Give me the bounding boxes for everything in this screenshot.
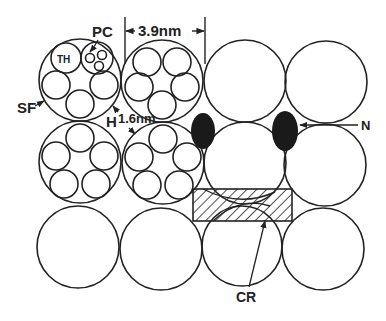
fibre-r3c1 xyxy=(37,206,119,288)
super-fibre-r1c2 xyxy=(121,40,203,122)
fibre-r1c4 xyxy=(285,41,367,123)
label-n: N xyxy=(361,118,370,133)
label-sf: SF xyxy=(17,99,36,116)
super-fibre-th-pc xyxy=(39,39,121,121)
label-cr: CR xyxy=(236,289,256,305)
dark-node-1 xyxy=(191,113,215,149)
fibre-r3c2 xyxy=(120,208,202,290)
label-3-9nm: 3.9nm xyxy=(138,22,181,39)
label-1-6nm: 1.6nm xyxy=(118,111,156,126)
dark-node-2 xyxy=(272,111,298,151)
label-pc: PC xyxy=(92,23,113,40)
fibre-packing-diagram: 3.9nm PC TH SF H 1.6nm N CR xyxy=(0,0,386,321)
label-th: TH xyxy=(57,54,70,65)
label-h: H xyxy=(106,113,117,130)
super-fibre-r2c1 xyxy=(39,121,121,203)
fibre-r3c4 xyxy=(282,208,364,290)
fibre-r1c3 xyxy=(204,40,286,122)
